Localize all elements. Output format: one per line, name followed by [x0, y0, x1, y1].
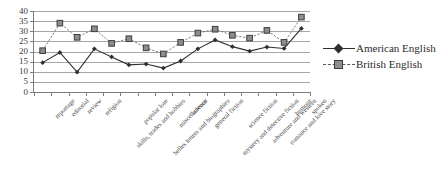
gridline	[34, 21, 310, 22]
gridline	[34, 72, 310, 73]
gridline	[34, 11, 310, 12]
x-tick-mark	[172, 93, 173, 96]
y-tick-label: 35	[19, 17, 28, 26]
legend-key-square-icon	[322, 57, 356, 71]
x-tick-mark	[293, 93, 294, 96]
x-tick-mark	[69, 93, 70, 96]
y-axis: 0510152025303540	[0, 0, 31, 104]
gridline	[34, 62, 310, 63]
y-tick-label: 15	[19, 57, 28, 66]
y-tick-label: 10	[19, 67, 28, 76]
legend-key-diamond-icon	[322, 41, 356, 55]
x-tick-mark	[138, 93, 139, 96]
chart-figure: 0510152025303540 reportageeditorialrevie…	[0, 0, 442, 184]
y-tick-label: 5	[24, 77, 29, 86]
legend-label: British English	[356, 58, 422, 71]
y-tick-label: 30	[19, 27, 28, 36]
x-tick-mark	[207, 93, 208, 96]
gridline	[34, 31, 310, 32]
x-tick-mark	[224, 93, 225, 96]
gridline	[34, 41, 310, 42]
gridline	[34, 82, 310, 83]
x-tick-mark	[120, 93, 121, 96]
x-tick-mark	[155, 93, 156, 96]
x-tick-mark	[241, 93, 242, 96]
x-tick-mark	[103, 93, 104, 96]
x-tick-mark	[276, 93, 277, 96]
y-tick-label: 0	[24, 88, 29, 97]
x-tick-mark	[51, 93, 52, 96]
gridline	[34, 52, 310, 53]
y-tick-label: 25	[19, 37, 28, 46]
x-tick-mark	[310, 93, 311, 96]
x-tick-label: religion	[103, 97, 122, 116]
x-tick-mark	[34, 93, 35, 96]
plot-area	[34, 11, 310, 92]
x-tick-label: science	[189, 97, 208, 116]
y-tick-label: 20	[19, 47, 28, 56]
x-tick-mark	[258, 93, 259, 96]
chart-legend: American English British English	[322, 40, 440, 72]
y-tick-label: 40	[19, 7, 28, 16]
x-tick-mark	[86, 93, 87, 96]
legend-label: American English	[356, 42, 436, 55]
x-tick-mark	[189, 93, 190, 96]
legend-item-american-english[interactable]: American English	[322, 40, 440, 56]
legend-item-british-english[interactable]: British English	[322, 56, 440, 72]
